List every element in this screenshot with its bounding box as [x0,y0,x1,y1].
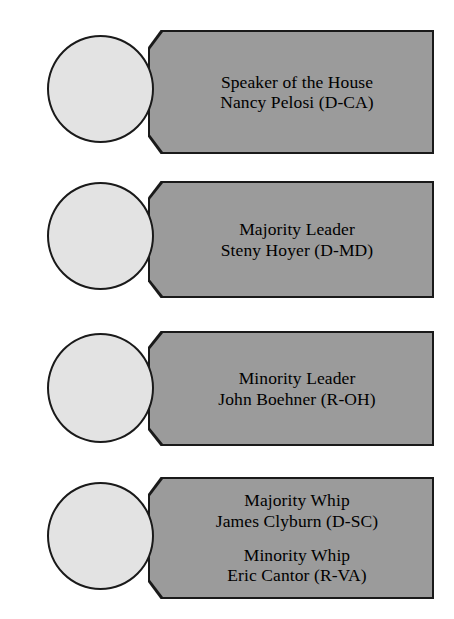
entry-title: Speaker of the House [221,72,373,92]
entry-name: Steny Hoyer (D-MD) [221,240,373,260]
leadership-entry: Minority Leader John Boehner (R-OH) [218,368,375,409]
leadership-entry: Majority Leader Steny Hoyer (D-MD) [221,219,373,260]
leadership-entry: Minority Whip Eric Cantor (R-VA) [227,545,367,586]
entry-title: Majority Leader [239,219,355,239]
node-circle [47,333,154,443]
entry-title: Minority Whip [244,545,350,565]
banner-text: Minority Leader John Boehner (R-OH) [160,331,434,446]
node-circle [47,35,154,143]
entry-name: John Boehner (R-OH) [218,389,375,409]
node-circle [47,182,154,290]
entry-title: Minority Leader [239,368,356,388]
banner-text: Majority Leader Steny Hoyer (D-MD) [160,181,434,298]
leadership-entry: Majority Whip James Clyburn (D-SC) [216,490,378,531]
entry-title: Majority Whip [244,490,349,510]
entry-name: Eric Cantor (R-VA) [227,565,367,585]
banner-text: Speaker of the House Nancy Pelosi (D-CA) [160,30,434,154]
leadership-diagram: Speaker of the House Nancy Pelosi (D-CA)… [0,0,454,619]
leadership-entry: Speaker of the House Nancy Pelosi (D-CA) [220,72,374,113]
entry-name: Nancy Pelosi (D-CA) [220,92,374,112]
node-circle [47,482,154,590]
banner-text: Majority Whip James Clyburn (D-SC) Minor… [160,477,434,599]
entry-name: James Clyburn (D-SC) [216,511,378,531]
